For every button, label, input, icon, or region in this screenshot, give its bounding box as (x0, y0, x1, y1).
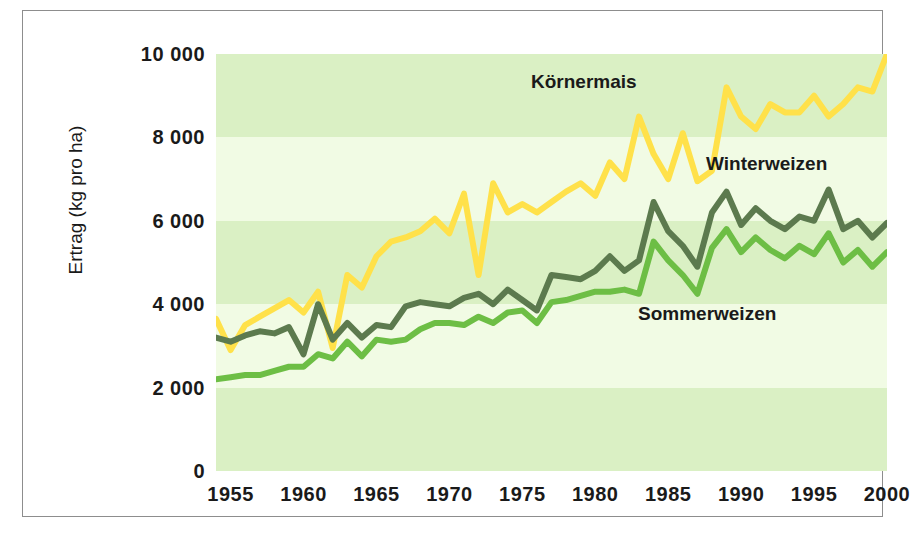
y-tick-label: 8 000 (152, 126, 205, 149)
x-tick-label: 1965 (353, 483, 400, 506)
y-tick-label: 10 000 (141, 43, 205, 66)
x-tick-label: 1990 (718, 483, 765, 506)
series-label: Körnermais (531, 71, 637, 93)
plot-area (216, 54, 887, 471)
x-tick-label: 1985 (645, 483, 692, 506)
x-tick-label: 1995 (791, 483, 838, 506)
x-tick-label: 2000 (864, 483, 910, 506)
x-tick-label: 1960 (280, 483, 327, 506)
x-tick-label: 1980 (572, 483, 619, 506)
series-label: Sommerweizen (638, 303, 776, 325)
x-tick-label: 1955 (207, 483, 254, 506)
x-axis-ticks: 1955196019651970197519801985199019952000 (216, 483, 887, 515)
y-axis-ticks: 10 0008 0006 0004 0002 0000 (83, 54, 205, 471)
y-tick-label: 2 000 (152, 376, 205, 399)
y-tick-label: 6 000 (152, 209, 205, 232)
series-label: Winterweizen (706, 153, 827, 175)
y-tick-label: 4 000 (152, 293, 205, 316)
y-tick-label: 0 (193, 460, 205, 483)
x-tick-label: 1970 (426, 483, 473, 506)
figure-frame: Ertrag (kg pro ha) 10 0008 0006 0004 000… (22, 10, 883, 517)
series-lines (216, 54, 887, 471)
x-tick-label: 1975 (499, 483, 546, 506)
series-line (216, 190, 887, 355)
